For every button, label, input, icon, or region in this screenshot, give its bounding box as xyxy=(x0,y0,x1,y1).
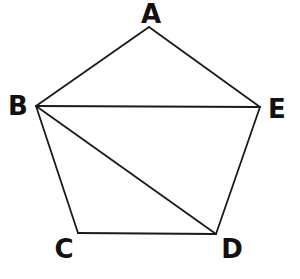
edge-DE xyxy=(216,107,260,234)
vertex-label-c: C xyxy=(54,234,73,264)
edge-AB xyxy=(36,27,149,106)
vertex-label-d: D xyxy=(221,234,243,264)
edge-BD xyxy=(36,106,216,234)
vertex-label-a: A xyxy=(141,0,161,29)
edge-AE xyxy=(149,27,260,107)
edge-BC xyxy=(36,106,78,233)
vertex-label-e: E xyxy=(268,94,286,124)
vertex-labels: A B C D E xyxy=(8,0,286,264)
edges xyxy=(36,27,260,234)
vertex-label-b: B xyxy=(8,91,28,121)
pentagon-diagram: A B C D E xyxy=(0,0,300,279)
edge-CD xyxy=(78,233,216,234)
edge-BE xyxy=(36,106,260,107)
